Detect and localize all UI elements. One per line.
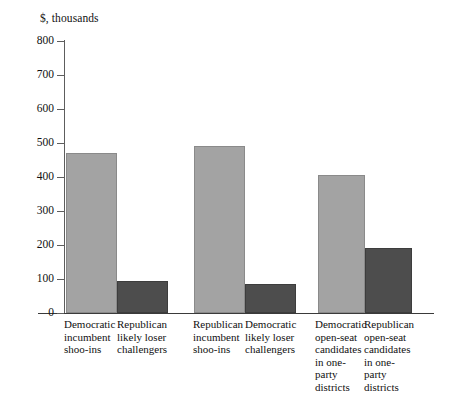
- y-axis-tick-mark: [57, 41, 64, 42]
- y-axis-tick-mark: [57, 143, 64, 144]
- y-axis-unit-label: $, thousands: [40, 12, 99, 24]
- y-axis-tick-label-text: 0: [24, 307, 54, 319]
- bar-2: [117, 281, 168, 313]
- category-label-4: Democratic likely loser challengers: [245, 318, 303, 356]
- y-axis-tick-label-text: 200: [24, 239, 54, 251]
- y-axis-line: [64, 40, 65, 314]
- y-axis-tick-label-text: 600: [24, 103, 54, 115]
- y-axis-tick-label-text: 500: [24, 137, 54, 149]
- bar-3: [194, 146, 245, 313]
- category-label-2: Republican likely loser challengers: [117, 318, 175, 356]
- y-axis-tick-label-text: 800: [24, 35, 54, 47]
- category-label-6: Republican open-seat candidates in one-p…: [364, 318, 416, 394]
- y-axis-tick-mark: [57, 211, 64, 212]
- category-label-3: Republican incumbent shoo-ins: [193, 318, 247, 356]
- y-axis-tick-label: 100: [20, 273, 54, 285]
- y-axis-tick-label: 0: [20, 307, 54, 319]
- y-axis-tick-mark: [57, 177, 64, 178]
- y-axis-tick-mark: [57, 313, 64, 314]
- y-axis-tick-mark: [57, 109, 64, 110]
- bar-5: [318, 175, 365, 313]
- bar-4: [245, 284, 296, 313]
- y-axis-tick-label-text: 300: [24, 205, 54, 217]
- y-axis-tick-label: 500: [20, 137, 54, 149]
- y-axis-tick-mark: [57, 75, 64, 76]
- y-axis-tick-label-text: 700: [24, 69, 54, 81]
- y-axis-tick-label-text: 100: [24, 273, 54, 285]
- y-axis-tick-label: 600: [20, 103, 54, 115]
- y-axis-tick-label: 200: [20, 239, 54, 251]
- bar-1: [66, 153, 117, 313]
- y-axis-tick-label: 400: [20, 171, 54, 183]
- y-axis-tick-label: 700: [20, 69, 54, 81]
- y-axis-tick-mark: [57, 279, 64, 280]
- y-axis-tick-label: 300: [20, 205, 54, 217]
- category-label-1: Democratic incumbent shoo-ins: [64, 318, 118, 356]
- x-axis-line: [38, 313, 434, 314]
- y-axis-tick-label-text: 400: [24, 171, 54, 183]
- y-axis-tick-label: 800: [20, 35, 54, 47]
- bar-6: [365, 248, 412, 313]
- y-axis-tick-mark: [57, 245, 64, 246]
- category-label-5: Democratic open-seat candidates in one-p…: [315, 318, 367, 394]
